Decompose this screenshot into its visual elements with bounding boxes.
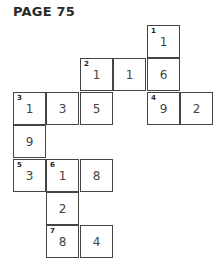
cell-value: 3 xyxy=(14,169,45,183)
cell-value: 8 xyxy=(81,169,112,183)
cell-value: 3 xyxy=(47,102,78,116)
grid-cell[interactable]: 8 xyxy=(80,159,113,192)
clue-number: 4 xyxy=(151,94,156,102)
cell-value: 2 xyxy=(47,202,78,216)
grid-cell[interactable]: 2 xyxy=(46,192,79,225)
grid-cell[interactable]: 1 xyxy=(113,58,146,91)
grid-cell[interactable]: 31 xyxy=(13,92,46,125)
grid-cell[interactable]: 78 xyxy=(46,225,79,258)
grid-cell[interactable]: 21 xyxy=(80,58,113,91)
cell-value: 1 xyxy=(114,68,145,82)
clue-number: 7 xyxy=(50,227,55,235)
cell-value: 9 xyxy=(14,135,45,149)
cell-value: 5 xyxy=(81,102,112,116)
clue-number: 1 xyxy=(151,27,156,35)
grid-cell[interactable]: 53 xyxy=(13,159,46,192)
cell-value: 1 xyxy=(47,169,78,183)
clue-number: 3 xyxy=(17,94,22,102)
grid-cell[interactable]: 4 xyxy=(80,225,113,258)
clue-number: 5 xyxy=(17,161,22,169)
grid-cell[interactable]: 3 xyxy=(46,92,79,125)
cell-value: 8 xyxy=(47,235,78,249)
cell-value: 6 xyxy=(148,68,179,82)
page-title: PAGE 75 xyxy=(13,4,75,19)
grid-cell[interactable]: 5 xyxy=(80,92,113,125)
cell-value: 4 xyxy=(81,235,112,249)
grid-cell[interactable]: 49 xyxy=(147,92,180,125)
cell-value: 1 xyxy=(81,68,112,82)
clue-number: 6 xyxy=(50,161,55,169)
grid-cell[interactable]: 2 xyxy=(180,92,213,125)
clue-number: 2 xyxy=(84,60,89,68)
grid-cell[interactable]: 9 xyxy=(13,125,46,158)
cell-value: 9 xyxy=(148,102,179,116)
grid-cell[interactable]: 6 xyxy=(147,58,180,91)
grid-cell[interactable]: 61 xyxy=(46,159,79,192)
cell-value: 1 xyxy=(148,35,179,49)
cell-value: 1 xyxy=(14,102,45,116)
cell-value: 2 xyxy=(181,102,212,116)
grid-cell[interactable]: 11 xyxy=(147,25,180,58)
